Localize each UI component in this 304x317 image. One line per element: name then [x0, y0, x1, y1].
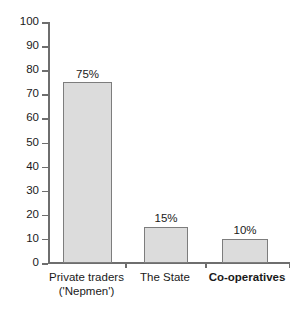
category-label-line1: Private traders: [49, 271, 124, 283]
x-tick-separator-2: [205, 262, 207, 268]
y-tick-label: 30: [26, 185, 39, 197]
bar-chart: 100 90 80 70 60 50 40 30: [0, 0, 304, 317]
category-label-co-operatives: Co-operatives: [205, 270, 289, 284]
y-tick-label: 40: [26, 161, 39, 173]
x-tick-end: [289, 262, 291, 268]
bar-value-label: 10%: [233, 225, 256, 237]
y-tick-mark: [42, 118, 48, 120]
y-tick-mark: [42, 191, 48, 193]
y-tick-mark: [42, 263, 48, 265]
bar-value-label: 15%: [154, 213, 177, 225]
category-label-the-state: The State: [125, 270, 205, 284]
category-label-line2: ('Nepmen'): [48, 284, 125, 298]
bar-value-label: 75%: [76, 69, 99, 81]
y-tick-mark: [42, 239, 48, 241]
bar-private-traders: 75%: [63, 82, 112, 263]
y-tick-mark: [42, 167, 48, 169]
y-tick-label: 50: [26, 137, 39, 149]
category-label-line1: The State: [140, 271, 190, 283]
y-tick-mark: [42, 46, 48, 48]
y-tick-label: 20: [26, 209, 39, 221]
y-tick-label: 10: [26, 233, 39, 245]
y-tick-mark: [42, 94, 48, 96]
category-label-line1: Co-operatives: [209, 271, 286, 283]
x-tick-separator-1: [125, 262, 127, 268]
category-label-private-traders: Private traders ('Nepmen'): [48, 270, 125, 298]
y-tick-mark: [42, 215, 48, 217]
y-tick-label: 70: [26, 89, 39, 101]
y-tick-label: 0: [33, 257, 39, 269]
y-tick-mark: [42, 143, 48, 145]
plot-area: 100 90 80 70 60 50 40 30: [48, 22, 290, 263]
y-tick-label: 100: [20, 16, 39, 28]
bar-the-state: 15%: [144, 227, 188, 263]
y-tick-label: 60: [26, 113, 39, 125]
y-tick-mark: [42, 22, 48, 24]
y-tick-label: 80: [26, 64, 39, 76]
y-tick-label: 90: [26, 40, 39, 52]
bar-co-operatives: 10%: [222, 239, 268, 263]
y-tick-mark: [42, 70, 48, 72]
